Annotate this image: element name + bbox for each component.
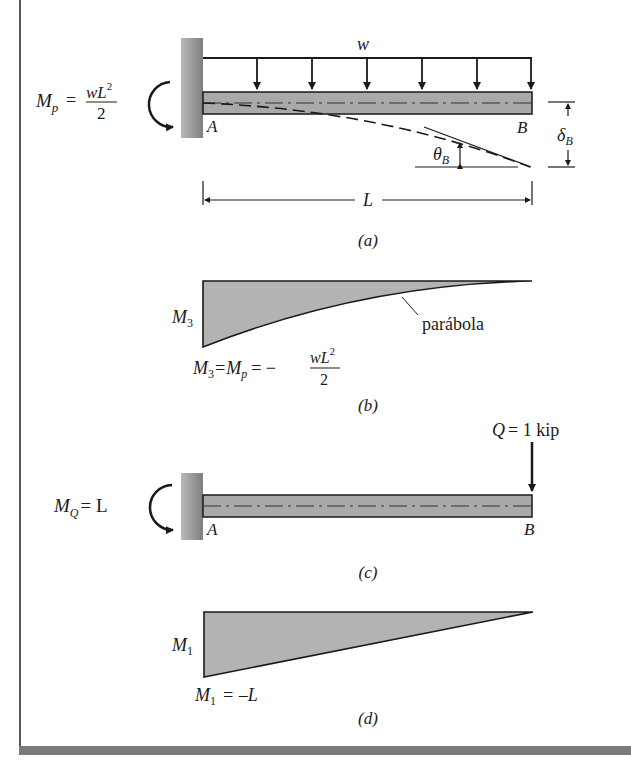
svg-text:2: 2 — [320, 371, 328, 388]
load-label-w: w — [357, 34, 369, 54]
panel-d: M1 M1= –L (d) — [171, 612, 533, 728]
panel-c: Q= 1 kip A B MQ= L (c) — [53, 420, 559, 582]
parabola-leader-line — [402, 297, 418, 315]
moment-numerator: wL2 — [86, 80, 112, 102]
fixed-wall-support — [181, 38, 203, 138]
svg-text:wL2: wL2 — [310, 345, 335, 366]
fixed-wall-support-c — [181, 473, 203, 540]
distributed-load-arrows — [257, 58, 531, 89]
support-label-a: A — [206, 117, 218, 136]
panel-b: parábola M3 M3=Mp= − wL2 2 (b) — [171, 281, 532, 415]
moment-diagram-linear — [204, 612, 533, 677]
moment-mq-label: MQ= L — [53, 495, 108, 520]
caption-d: (d) — [358, 709, 378, 728]
theta-b-label: θB — [433, 144, 450, 167]
m1-label: M1 — [171, 635, 193, 658]
moment-denominator: 2 — [97, 104, 106, 123]
m3-label: M3 — [171, 307, 193, 330]
point-load-label: Q= 1 kip — [492, 420, 559, 440]
caption-c: (c) — [359, 563, 378, 582]
caption-a: (a) — [358, 231, 378, 250]
end-label-b: B — [517, 118, 528, 137]
svg-text:=: = — [66, 90, 76, 110]
parabola-note: parábola — [422, 314, 484, 334]
delta-b-label: δB — [557, 125, 573, 148]
panel-a: w θB A B δB Mp = wL2 2 L (a) — [35, 34, 575, 250]
moment-mp-label: Mp — [35, 90, 59, 115]
span-label-l: L — [362, 190, 373, 210]
m1-equation: M1= –L — [194, 685, 258, 708]
caption-b: (b) — [358, 396, 378, 415]
end-label-b-c: B — [524, 520, 535, 539]
unit-moment-arrow — [150, 485, 173, 530]
cantilever-figure: w θB A B δB Mp = wL2 2 L (a) pa — [0, 0, 631, 779]
support-label-a-c: A — [206, 520, 218, 539]
m3-equation: M3=Mp= − — [192, 358, 276, 381]
fixed-end-moment-arrow — [149, 82, 173, 127]
